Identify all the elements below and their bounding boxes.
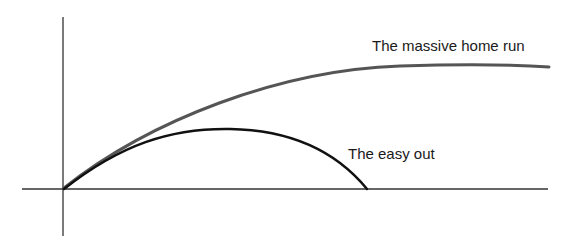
home-run-curve bbox=[64, 65, 549, 188]
home-run-label: The massive home run bbox=[372, 37, 525, 54]
easy-out-label: The easy out bbox=[348, 145, 435, 162]
trajectory-diagram bbox=[0, 0, 576, 236]
easy-out-curve bbox=[64, 129, 367, 189]
